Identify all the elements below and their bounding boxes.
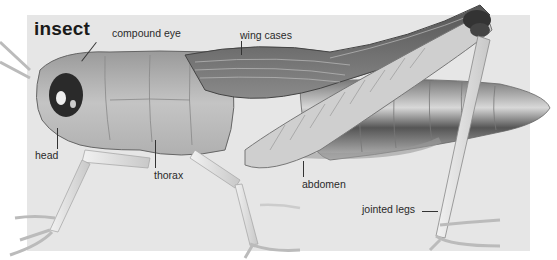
label-abdomen: abdomen — [302, 178, 346, 190]
label-jointed-legs: jointed legs — [362, 203, 415, 215]
diagram-title: insect — [34, 18, 90, 40]
label-wing-cases: wing cases — [240, 29, 292, 41]
label-thorax: thorax — [154, 169, 183, 181]
leader-thorax — [155, 140, 156, 168]
leader-jointed-legs — [422, 211, 438, 212]
label-compound-eye: compound eye — [112, 27, 181, 39]
label-head: head — [35, 149, 58, 161]
leader-head — [57, 128, 58, 149]
antenna — [0, 42, 30, 78]
leader-abdomen — [303, 161, 304, 177]
leader-wing-cases — [241, 41, 242, 55]
